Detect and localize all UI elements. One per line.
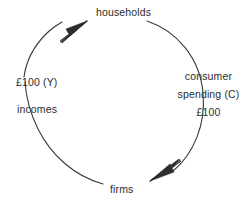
arc-incomes-upper xyxy=(24,22,62,77)
spending-amount-text: £100 xyxy=(166,106,251,118)
spending-caption-line2: spending (C) xyxy=(166,88,251,100)
arrow-to-households-icon xyxy=(60,21,87,43)
arrow-to-firms-icon xyxy=(150,159,181,181)
flow-label-consumer-spending: consumer spending (C) £100 xyxy=(166,70,251,118)
incomes-amount-text: £100 (Y) xyxy=(16,76,92,88)
node-label-firms: firms xyxy=(110,183,134,195)
spending-caption-line1: consumer xyxy=(166,70,251,82)
incomes-caption-text: incomes xyxy=(17,103,92,115)
circular-flow-diagram: households firms £100 (Y) incomes consum… xyxy=(0,0,251,203)
flow-label-incomes: £100 (Y) incomes xyxy=(6,76,92,115)
node-label-households: households xyxy=(96,6,151,18)
